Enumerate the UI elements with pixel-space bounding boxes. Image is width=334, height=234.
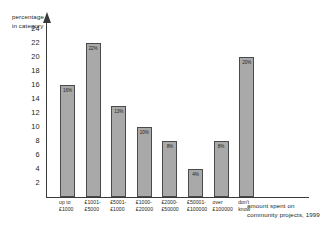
- y-axis-tick-label: 8: [36, 137, 40, 144]
- y-axis-tick-label: 20: [31, 53, 40, 60]
- y-axis-tick-label: 10: [31, 123, 40, 130]
- y-axis-tick-label: 4: [36, 165, 40, 172]
- bar-value-label: 8%: [215, 144, 228, 149]
- bar-value-label: 4%: [189, 172, 202, 177]
- bar: 4%: [188, 169, 203, 197]
- y-axis-tick-label: 16: [31, 81, 40, 88]
- y-axis-tick-label: 14: [31, 95, 40, 102]
- bar: 13%: [111, 106, 126, 197]
- bar-value-label: 8%: [163, 144, 176, 149]
- y-axis-tick-labels: 24222018161412108642: [0, 0, 46, 234]
- bar: 16%: [60, 85, 75, 197]
- y-axis-tick-label: 12: [31, 109, 40, 116]
- plot-area: 16%22%13%10%8%4%8%20%: [46, 22, 309, 197]
- x-axis-title-line-1: amount spent on: [247, 202, 333, 211]
- bar-value-label: 13%: [112, 109, 125, 114]
- x-axis-title-line-2: community projects, 1999: [247, 211, 333, 220]
- bar: 8%: [162, 141, 177, 197]
- bar-value-label: 22%: [87, 46, 100, 51]
- bar-chart: percentage in category 24222018161412108…: [0, 0, 334, 234]
- bar: 8%: [214, 141, 229, 197]
- y-axis-tick-label: 22: [31, 39, 40, 46]
- y-axis-tick-label: 6: [36, 151, 40, 158]
- y-axis-tick-label: 18: [31, 67, 40, 74]
- bar-value-label: 10%: [138, 130, 151, 135]
- bar: 22%: [86, 43, 101, 197]
- bar: 10%: [137, 127, 152, 197]
- y-axis-tick-label: 24: [31, 25, 40, 32]
- y-axis-tick-label: 2: [36, 179, 40, 186]
- x-axis-title: amount spent on community projects, 1999: [247, 202, 333, 219]
- bar: 20%: [239, 57, 254, 197]
- bar-value-label: 16%: [61, 88, 74, 93]
- bar-value-label: 20%: [240, 60, 253, 65]
